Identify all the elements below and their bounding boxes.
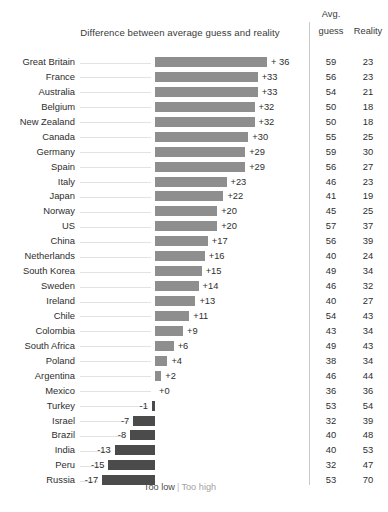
bar-plot-cell: +32 <box>0 100 309 115</box>
bar-value-label: +22 <box>227 190 243 202</box>
chart-legend: Too low|Too high <box>60 482 300 492</box>
bar-value-label: +6 <box>178 340 189 352</box>
avg-guess-value: 41 <box>312 190 350 202</box>
chart-row: Germany+295930 <box>0 145 388 160</box>
avg-guess-value: 53 <box>312 400 350 412</box>
chart-row: Japan+224119 <box>0 189 388 204</box>
bar-value-label: +29 <box>249 146 265 158</box>
bar-positive <box>155 266 202 276</box>
bar-value-label: +4 <box>171 355 182 367</box>
bar-value-label: +20 <box>221 205 237 217</box>
avg-guess-value: 50 <box>312 101 350 113</box>
legend-too-high: Too high <box>181 482 216 492</box>
avg-guess-value: 54 <box>312 310 350 322</box>
bar-plot-cell: +20 <box>0 219 309 234</box>
chart-row: Italy+234623 <box>0 175 388 190</box>
bar-plot-cell: +4 <box>0 354 309 369</box>
bar-value-label: +32 <box>259 101 275 113</box>
reality-value: 39 <box>348 415 388 427</box>
leader-line <box>80 227 151 228</box>
bar-positive <box>155 236 208 246</box>
avg-guess-value: 49 <box>312 340 350 352</box>
bar-plot-cell: -7 <box>0 414 309 429</box>
chart-row: Norway+204525 <box>0 204 388 219</box>
diverging-bar-chart: Difference between average guess and rea… <box>0 0 388 512</box>
leader-line <box>80 137 151 138</box>
bar-positive <box>155 57 267 67</box>
avg-guess-value: 56 <box>312 71 350 83</box>
bar-positive <box>155 117 255 127</box>
bar-plot-cell: +13 <box>0 294 309 309</box>
avg-guess-value: 36 <box>312 385 350 397</box>
bar-positive <box>155 371 161 381</box>
chart-row: Netherlands+164024 <box>0 249 388 264</box>
bar-value-label: +11 <box>193 310 208 322</box>
bar-plot-cell: +32 <box>0 115 309 130</box>
chart-row: Great Britain+ 365923 <box>0 55 388 70</box>
chart-row: Colombia+94334 <box>0 324 388 339</box>
reality-value: 70 <box>348 474 388 486</box>
legend-too-low: Too low <box>144 482 175 492</box>
avg-guess-value: 40 <box>312 295 350 307</box>
leader-line <box>80 212 151 213</box>
leader-line <box>80 122 151 123</box>
reality-value: 47 <box>348 459 388 471</box>
chart-row: Ireland+134027 <box>0 294 388 309</box>
bar-positive <box>155 326 183 336</box>
leader-line <box>80 167 151 168</box>
bar-negative <box>130 430 155 440</box>
bar-value-label: +20 <box>221 220 237 232</box>
bar-positive <box>155 296 195 306</box>
chart-row: New Zealand+325018 <box>0 115 388 130</box>
avg-guess-value: 45 <box>312 205 350 217</box>
bar-plot-cell: +22 <box>0 189 309 204</box>
reality-value: 44 <box>348 370 388 382</box>
bar-positive <box>155 311 189 321</box>
leader-line <box>80 316 151 317</box>
reality-value: 34 <box>348 265 388 277</box>
reality-value: 27 <box>348 295 388 307</box>
reality-value: 30 <box>348 146 388 158</box>
chart-row: Sweden+144632 <box>0 279 388 294</box>
bar-value-label: +30 <box>252 131 268 143</box>
bar-positive <box>155 251 205 261</box>
bar-plot-cell: +17 <box>0 234 309 249</box>
column-header-reality: Reality <box>348 26 388 36</box>
leader-line <box>80 272 151 273</box>
bar-value-label: +23 <box>231 176 247 188</box>
leader-line <box>80 361 151 362</box>
bar-positive <box>155 102 255 112</box>
bar-value-label: +16 <box>209 250 225 262</box>
bar-plot-cell: -13 <box>0 443 309 458</box>
bar-positive <box>155 341 174 351</box>
bar-positive <box>155 162 245 172</box>
chart-row: Belgium+325018 <box>0 100 388 115</box>
bar-plot-cell: -1 <box>0 399 309 414</box>
chart-row: France+335623 <box>0 70 388 85</box>
chart-row: Israel-73239 <box>0 414 388 429</box>
leader-line <box>80 152 151 153</box>
bar-positive <box>155 191 223 201</box>
reality-value: 23 <box>348 56 388 68</box>
avg-guess-value: 46 <box>312 280 350 292</box>
avg-guess-value: 53 <box>312 474 350 486</box>
avg-guess-value: 54 <box>312 86 350 98</box>
chart-row: South Korea+154934 <box>0 264 388 279</box>
avg-guess-value: 32 <box>312 415 350 427</box>
avg-guess-value: 55 <box>312 131 350 143</box>
bar-plot-cell: +29 <box>0 160 309 175</box>
chart-row: India-134053 <box>0 443 388 458</box>
bar-value-label: +15 <box>206 265 222 277</box>
reality-value: 27 <box>348 161 388 173</box>
leader-line <box>80 77 151 78</box>
leader-line <box>80 302 151 303</box>
leader-line <box>80 197 151 198</box>
chart-row: South Africa+64943 <box>0 339 388 354</box>
avg-guess-value: 56 <box>312 161 350 173</box>
bar-value-label: -15 <box>91 459 104 471</box>
bar-plot-cell: +9 <box>0 324 309 339</box>
bar-negative <box>115 445 155 455</box>
leader-line <box>80 391 151 392</box>
leader-line <box>80 92 151 93</box>
reality-value: 34 <box>348 325 388 337</box>
